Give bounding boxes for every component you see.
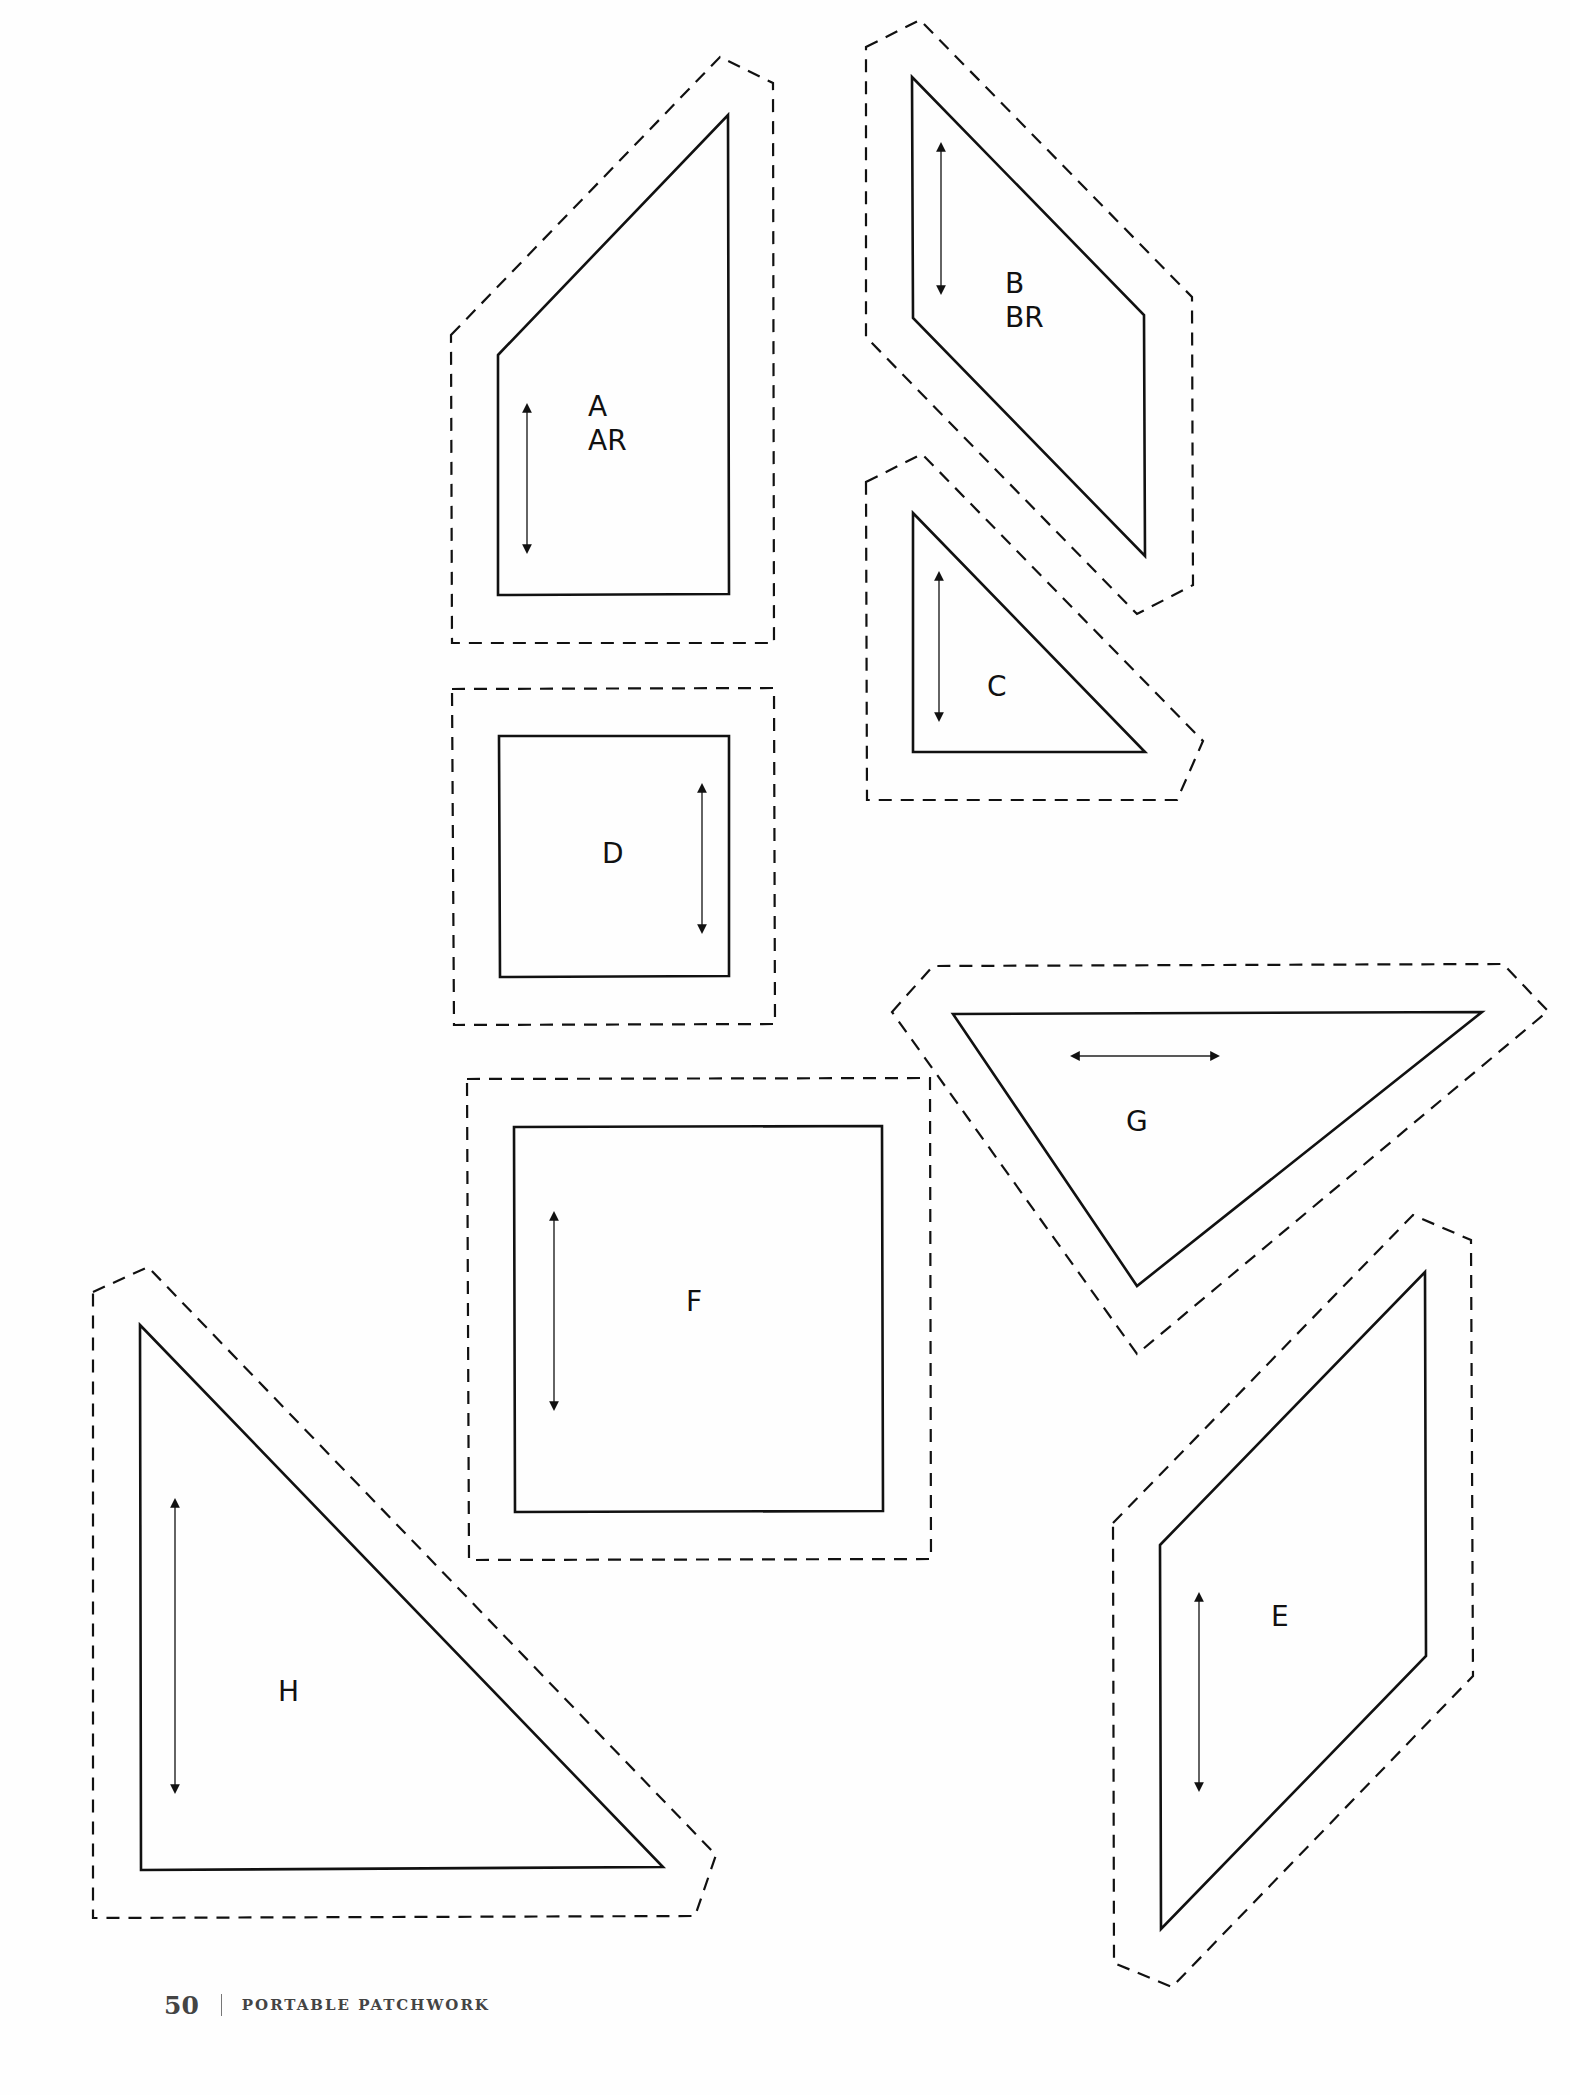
piece-label-e: E [1271,1600,1289,1634]
finished-size-outline [913,513,1145,752]
page-number: 50 [164,1991,199,2020]
piece-label-line: A [588,390,627,424]
book-title: PORTABLE PATCHWORK [242,1996,490,2014]
finished-size-outline [514,1126,883,1512]
finished-size-outline [140,1325,663,1870]
piece-label-b: BBR [1005,267,1044,335]
piece-label-line: H [278,1675,299,1709]
piece-label-line: B [1005,267,1044,301]
piece-label-line: D [602,837,624,871]
seam-allowance-outline [892,964,1548,1354]
seam-allowance-outline [451,57,774,643]
template-sheet [0,0,1570,2095]
template-piece-a [451,57,774,643]
template-piece-f [467,1078,931,1560]
piece-label-f: F [686,1285,702,1319]
finished-size-outline [498,115,729,595]
footer-divider [221,1994,222,2016]
seam-allowance-outline [467,1078,931,1560]
seam-allowance-outline [866,454,1203,800]
page-footer: 50 PORTABLE PATCHWORK [164,1990,490,2020]
finished-size-outline [1160,1272,1426,1929]
template-piece-c [866,454,1203,800]
piece-label-c: C [987,670,1007,704]
piece-label-line: AR [588,424,627,458]
piece-label-line: C [987,670,1007,704]
piece-label-g: G [1126,1105,1148,1139]
finished-size-outline [953,1012,1482,1286]
pattern-page: AARBBRCDEFGH 50 PORTABLE PATCHWORK [0,0,1570,2095]
template-piece-e [1113,1215,1473,1987]
template-piece-h [93,1267,716,1918]
piece-label-d: D [602,837,624,871]
piece-label-line: F [686,1285,702,1319]
piece-label-line: E [1271,1600,1289,1634]
piece-label-line: G [1126,1105,1148,1139]
piece-label-line: BR [1005,301,1044,335]
seam-allowance-outline [1113,1215,1473,1987]
piece-label-h: H [278,1675,299,1709]
piece-label-a: AAR [588,390,627,458]
seam-allowance-outline [93,1267,716,1918]
template-piece-g [892,964,1548,1354]
